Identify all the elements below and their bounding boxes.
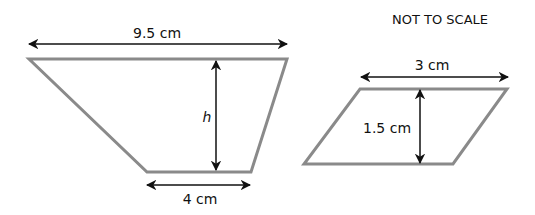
trapezoid-height-label: h bbox=[203, 109, 212, 125]
parallelogram-height-label: 1.5 cm bbox=[363, 120, 411, 136]
diagram-canvas: NOT TO SCALE 9.5 cm h 4 cm 3 cm 1.5 cm bbox=[0, 0, 535, 215]
parallelogram-top-label: 3 cm bbox=[415, 57, 450, 73]
trapezoid-top-label: 9.5 cm bbox=[133, 25, 181, 41]
shapes-svg bbox=[0, 0, 535, 215]
trapezoid-shape bbox=[29, 59, 287, 172]
trapezoid-bottom-label: 4 cm bbox=[183, 191, 218, 207]
not-to-scale-note: NOT TO SCALE bbox=[392, 12, 488, 27]
